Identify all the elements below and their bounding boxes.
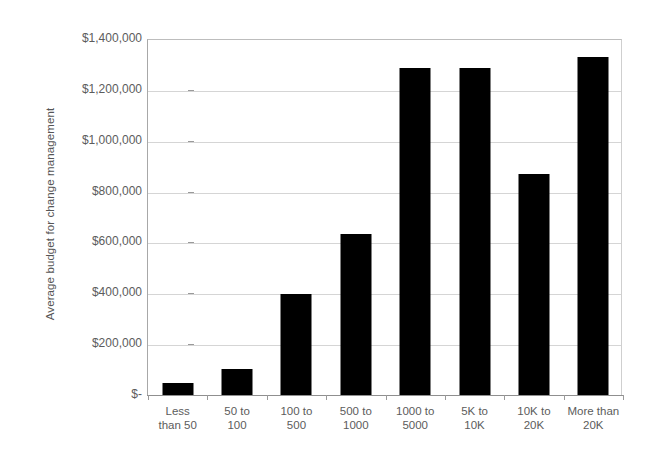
y-tick-label: $200,000 xyxy=(50,336,142,350)
x-tick-mark xyxy=(148,395,149,400)
bar[interactable] xyxy=(222,369,253,395)
x-tick-mark xyxy=(386,395,387,400)
x-tick-label-line: 20K xyxy=(558,418,628,432)
bar[interactable] xyxy=(340,234,371,395)
x-tick-label-line: More than xyxy=(558,404,628,418)
bar[interactable] xyxy=(459,68,490,395)
x-axis-tick-labels: Lessthan 5050 to100100 to500500 to100010… xyxy=(148,395,623,451)
bar-slot xyxy=(267,39,326,395)
bars-layer xyxy=(148,39,623,395)
y-tick-label: $800,000 xyxy=(50,184,142,198)
y-tick-label: $600,000 xyxy=(50,234,142,248)
bar[interactable] xyxy=(578,57,609,395)
bar-slot xyxy=(207,39,266,395)
x-tick-mark xyxy=(564,395,565,400)
bar-slot xyxy=(326,39,385,395)
bar-chart: Average budget for change management $1,… xyxy=(0,0,657,451)
y-tick-label: $1,000,000 xyxy=(50,133,142,147)
bar-slot xyxy=(386,39,445,395)
bar-slot xyxy=(148,39,207,395)
bar-slot xyxy=(504,39,563,395)
y-tick-label: $400,000 xyxy=(50,285,142,299)
y-tick-label: $1,200,000 xyxy=(50,82,142,96)
bar-slot xyxy=(445,39,504,395)
bar-slot xyxy=(564,39,623,395)
x-tick-mark xyxy=(267,395,268,400)
bar[interactable] xyxy=(162,383,193,395)
bar[interactable] xyxy=(518,174,549,395)
x-tick-mark xyxy=(326,395,327,400)
x-tick-label: More than20K xyxy=(558,404,628,432)
x-tick-mark xyxy=(623,395,624,400)
y-tick-label: $1,400,000 xyxy=(50,31,142,45)
bar[interactable] xyxy=(400,68,431,395)
y-axis-tick-labels: $1,400,000$1,200,000$1,000,000$800,000$6… xyxy=(47,0,142,451)
x-tick-mark xyxy=(207,395,208,400)
y-tick-label: $- xyxy=(50,387,142,401)
bar[interactable] xyxy=(281,294,312,395)
x-tick-mark xyxy=(445,395,446,400)
x-tick-mark xyxy=(504,395,505,400)
